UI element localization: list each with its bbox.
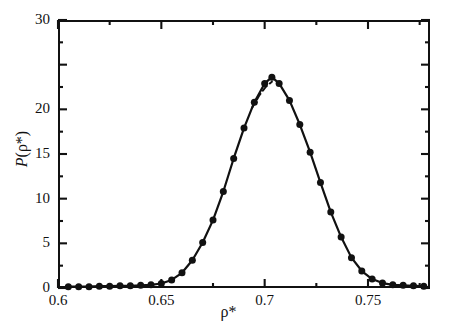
data-point-marker (379, 280, 386, 287)
data-point-marker (189, 257, 196, 264)
y-axis-title-suffix: (ρ*) (13, 131, 30, 158)
data-point-marker (127, 282, 134, 289)
data-point-marker (168, 276, 175, 283)
data-point-marker (348, 254, 355, 261)
data-point-marker (230, 155, 237, 162)
data-point-marker (241, 125, 248, 132)
data-point-marker (251, 99, 258, 106)
y-tick-label-5: 5 (14, 235, 50, 250)
data-point-marker (307, 149, 314, 156)
data-point-marker (65, 283, 72, 290)
data-point-marker (327, 209, 334, 216)
data-point-marker (276, 80, 283, 87)
chart-plot-area (0, 0, 457, 330)
data-point-marker (389, 281, 396, 288)
series-line-simulation (68, 77, 423, 286)
data-point-marker (199, 239, 206, 246)
y-tick-label-30: 30 (14, 12, 50, 27)
y-axis-title: P(ρ*) (13, 109, 31, 189)
y-axis-title-prefix: P (13, 157, 30, 167)
data-point-marker (420, 283, 427, 290)
data-point-marker (338, 234, 345, 241)
axis-ticks (58, 20, 430, 288)
data-point-marker (296, 121, 303, 128)
data-point-marker (369, 276, 376, 283)
data-point-marker (220, 188, 227, 195)
data-point-marker (410, 282, 417, 289)
data-point-marker (261, 80, 268, 87)
data-point-marker (358, 268, 365, 275)
data-point-marker (106, 283, 113, 290)
y-tick-label-10: 10 (14, 191, 50, 206)
data-curves (68, 77, 423, 286)
figure-canvas: 0 5 10 15 20 30 0.6 0.65 0.7 0.75 ρ* P(ρ… (0, 0, 457, 330)
data-point-marker (400, 282, 407, 289)
data-point-marker (317, 179, 324, 186)
data-point-marker (286, 97, 293, 104)
data-point-marker (179, 269, 186, 276)
data-point-marker (158, 280, 165, 287)
data-point-marker (137, 282, 144, 289)
data-point-marker (86, 283, 93, 290)
x-axis-title: ρ* (0, 303, 457, 321)
data-point-marker (148, 281, 155, 288)
data-point-marker (117, 282, 124, 289)
data-point-marker (210, 217, 217, 224)
data-point-markers (65, 74, 427, 290)
data-point-marker (268, 74, 275, 81)
data-point-marker (96, 283, 103, 290)
data-point-marker (75, 283, 82, 290)
